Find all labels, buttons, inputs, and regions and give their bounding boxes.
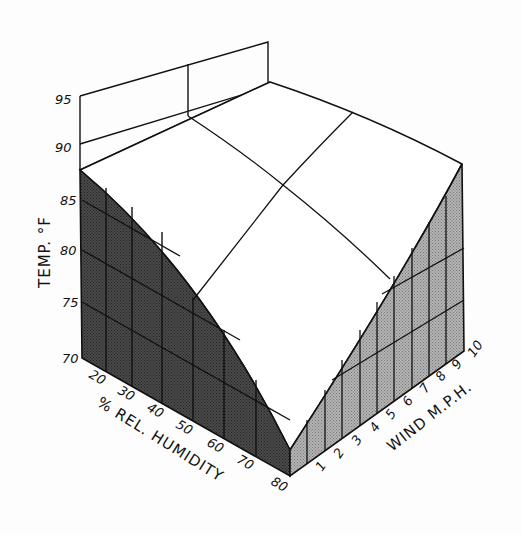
y-tick-3: 3 (348, 432, 365, 447)
z-tick-95: 95 (55, 92, 72, 107)
y-tick-7: 7 (416, 380, 433, 396)
y-tick-10: 10 (464, 338, 486, 360)
z-tick-90: 90 (55, 140, 72, 155)
z-tick-70: 70 (62, 351, 79, 366)
chart-container: 95 90 85 80 75 70 TEMP. °F 20 30 40 50 6… (0, 0, 522, 535)
surface-chart: 95 90 85 80 75 70 TEMP. °F 20 30 40 50 6… (0, 0, 522, 535)
temp-axis-labels: 95 90 85 80 75 70 (55, 92, 79, 366)
y-tick-2: 2 (330, 445, 347, 460)
y-tick-6: 6 (399, 393, 416, 408)
z-axis-title: TEMP. °F (36, 216, 54, 289)
y-tick-8: 8 (432, 368, 449, 383)
y-tick-1: 1 (312, 458, 329, 473)
x-tick-80: 80 (269, 474, 291, 495)
y-tick-4: 4 (366, 419, 383, 434)
z-tick-80: 80 (60, 243, 77, 258)
z-tick-75: 75 (62, 295, 79, 310)
y-tick-5: 5 (382, 406, 399, 421)
z-tick-85: 85 (60, 193, 77, 208)
y-tick-9: 9 (448, 356, 465, 371)
